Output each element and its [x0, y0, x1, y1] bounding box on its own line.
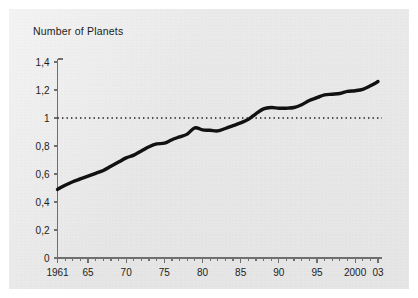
x-axis-label: 75	[159, 267, 170, 278]
y-axis-label: 1,2	[0, 85, 50, 96]
y-axis-label: 0	[0, 253, 50, 264]
x-axis-label: 2000	[344, 267, 366, 278]
y-axis-label: 0,6	[0, 169, 50, 180]
x-axis-label: 1961	[46, 267, 68, 278]
x-axis-label: 95	[311, 267, 322, 278]
x-axis-label: 65	[82, 267, 93, 278]
y-axis-label: 1	[0, 113, 50, 124]
x-axis-label: 85	[235, 267, 246, 278]
x-axis-label: 03	[372, 267, 383, 278]
tick-marks-group	[54, 62, 379, 263]
data-line-0	[58, 82, 379, 190]
x-axis-label: 90	[273, 267, 284, 278]
chart-figure: Number of Planets 00,20,40,60,811,21,4 1…	[0, 0, 418, 298]
y-axis-label: 0,4	[0, 197, 50, 208]
y-axis-label: 0,8	[0, 141, 50, 152]
data-series-group	[58, 82, 379, 190]
axis-group	[58, 59, 383, 258]
y-axis-label: 1,4	[0, 57, 50, 68]
x-axis-label: 70	[121, 267, 132, 278]
y-axis-label: 0,2	[0, 225, 50, 236]
x-axis-label: 80	[197, 267, 208, 278]
line-chart-plot	[0, 0, 418, 298]
